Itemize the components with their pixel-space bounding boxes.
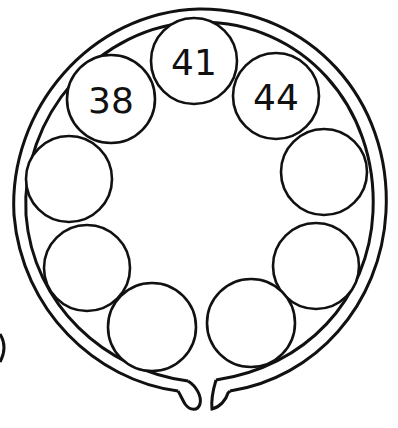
number-circle-6: [207, 279, 295, 367]
left-hook: [178, 381, 200, 409]
number-circle-2: 41: [151, 18, 237, 104]
circle-label: 41: [171, 42, 217, 83]
number-circle-4: [281, 129, 367, 215]
edge-arc-fragment: [0, 334, 4, 362]
circle-shape: [108, 283, 196, 371]
circle-shape: [44, 225, 130, 311]
circle-label: 44: [253, 77, 299, 118]
number-circle-8: [44, 225, 130, 311]
diagram-canvas: 384144: [0, 0, 398, 428]
circle-shape: [281, 129, 367, 215]
circle-shape: [207, 279, 295, 367]
right-hook: [212, 380, 230, 409]
circle-label: 38: [88, 80, 134, 121]
number-circle-9: [26, 136, 112, 222]
number-circle-7: [108, 283, 196, 371]
ring-diagram: 384144: [0, 0, 398, 428]
circle-shape: [26, 136, 112, 222]
number-circle-3: 44: [233, 53, 319, 139]
ball-circles: 384144: [26, 18, 367, 371]
number-circle-1: 38: [67, 55, 155, 143]
